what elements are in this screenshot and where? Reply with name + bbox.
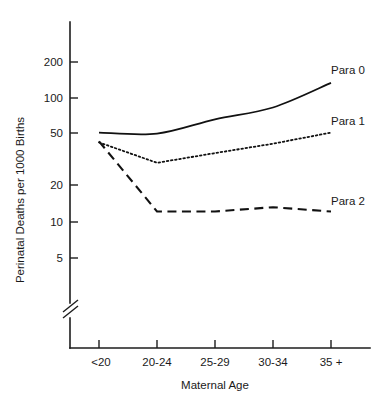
axis-break-mark <box>63 306 78 318</box>
x-tick-label-4: 35 + <box>320 356 343 368</box>
x-tick-label-1: 20-24 <box>142 356 172 368</box>
series-line-para-0 <box>99 83 331 134</box>
y-tick-label-10: 10 <box>50 216 63 228</box>
perinatal-deaths-line-chart: Perinatal Deaths per 1000 Births 200 100… <box>0 0 382 397</box>
x-axis-ticks <box>99 340 331 348</box>
y-tick-label-200: 200 <box>44 56 63 68</box>
series-line-para-1 <box>99 133 331 163</box>
y-tick-label-100: 100 <box>44 92 63 104</box>
y-tick-label-50: 50 <box>50 127 63 139</box>
y-axis-ticks <box>70 62 78 258</box>
series-label-para-1: Para 1 <box>331 115 365 127</box>
series-label-para-2: Para 2 <box>331 195 365 207</box>
series-label-para-0: Para 0 <box>331 64 365 76</box>
series-line-para-2 <box>99 141 331 211</box>
y-tick-label-5: 5 <box>57 252 63 264</box>
x-tick-label-3: 30-34 <box>258 356 288 368</box>
x-axis-title: Maternal Age <box>181 379 249 391</box>
x-tick-label-0: <20 <box>91 356 111 368</box>
y-tick-label-20: 20 <box>50 179 63 191</box>
y-axis-title: Perinatal Deaths per 1000 Births <box>14 117 26 283</box>
chart-container: Perinatal Deaths per 1000 Births 200 100… <box>0 0 382 397</box>
x-tick-label-2: 25-29 <box>200 356 229 368</box>
